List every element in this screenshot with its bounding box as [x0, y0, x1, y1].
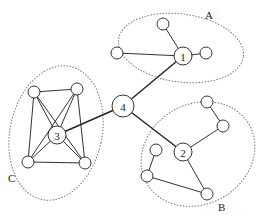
leaf-node [22, 156, 34, 168]
edge [28, 162, 85, 163]
leaf-node [79, 157, 91, 169]
hub-node-label: 3 [54, 130, 60, 142]
cluster-label-a: A [205, 9, 213, 21]
leaf-node [150, 144, 162, 156]
leaf-node [201, 188, 213, 200]
network-diagram: 1234 ABC [0, 0, 272, 221]
leaf-node [28, 86, 40, 98]
cluster-label-c: C [8, 172, 15, 184]
hub-node-label: 1 [180, 51, 186, 63]
leaf-node [157, 18, 169, 30]
edge [28, 92, 34, 162]
leaf-node [217, 120, 229, 132]
edge [28, 89, 77, 162]
cluster-group [0, 6, 272, 221]
edge [117, 53, 183, 56]
leaf-node [200, 47, 212, 59]
leaf-node [71, 83, 83, 95]
hub-node-label: 4 [120, 101, 126, 113]
hub-node-label: 2 [180, 147, 186, 159]
cluster-boundary-b [122, 81, 272, 221]
leaf-node [201, 96, 213, 108]
node-group: 1234 [22, 18, 229, 200]
leaf-node [141, 170, 153, 182]
leaf-node [111, 47, 123, 59]
cluster-label-b: B [218, 201, 225, 213]
bridge-edge [123, 56, 183, 106]
